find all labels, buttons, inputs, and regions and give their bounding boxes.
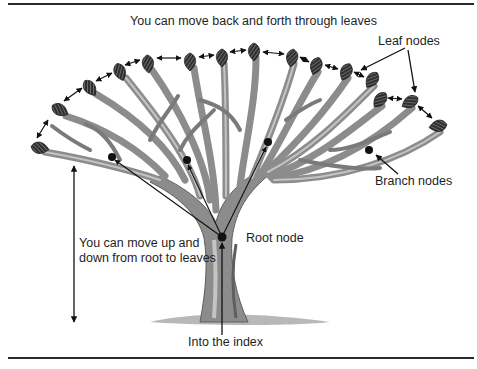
branch-node-dot — [108, 153, 116, 161]
branch-node-dot — [183, 156, 191, 164]
leaf-nodes-label: Leaf nodes — [378, 34, 440, 49]
root-node-dot — [218, 233, 227, 242]
up-down-label-line2: down from root to leaves — [79, 251, 216, 266]
branch-node-dot — [365, 146, 373, 154]
leaf-nodes-group — [30, 43, 448, 155]
leaf-icon — [428, 119, 448, 133]
leaf-traversal-label: You can move back and forth through leav… — [130, 14, 377, 29]
up-down-label-line1: You can move up and — [79, 236, 199, 251]
leaf-icon — [308, 56, 325, 77]
root-node-label: Root node — [246, 231, 304, 246]
branch-node-dot — [264, 138, 272, 146]
entry-label: Into the index — [188, 335, 263, 350]
branch-nodes-label: Branch nodes — [375, 174, 452, 189]
